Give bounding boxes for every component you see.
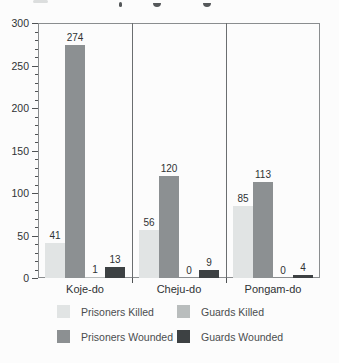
legend-label-guards-killed: Guards Killed	[201, 306, 264, 319]
chart-page: 05010015020025030041274113Koje-do5612009…	[0, 0, 339, 363]
legend-label-prisoners-killed: Prisoners Killed	[81, 306, 154, 319]
legend-label-guards-wounded: Guards Wounded	[201, 331, 283, 344]
legend-swatch-guards-wounded	[177, 330, 190, 343]
chart-legend: Prisoners KilledPrisoners WoundedGuards …	[0, 0, 339, 363]
legend-swatch-prisoners-killed	[57, 305, 70, 318]
legend-swatch-guards-killed	[177, 305, 190, 318]
legend-label-prisoners-wounded: Prisoners Wounded	[81, 331, 173, 344]
legend-swatch-prisoners-wounded	[57, 330, 70, 343]
